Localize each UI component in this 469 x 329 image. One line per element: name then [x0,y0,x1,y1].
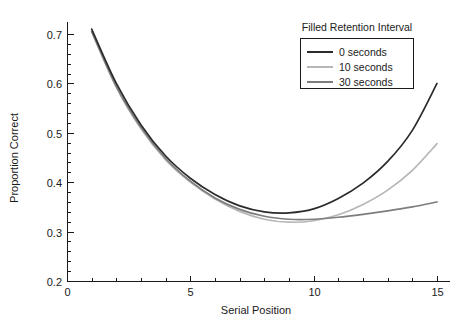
y-axis-ticks [68,35,74,282]
y-axis-tick-labels: 0.20.30.40.50.60.7 [47,29,62,288]
x-axis-title: Serial Position [221,304,291,316]
chart-figure: 0.20.30.40.50.60.7 051015 Serial Positio… [0,0,469,329]
y-tick-label: 0.2 [47,276,62,288]
y-tick-label: 0.6 [47,78,62,90]
data-series-group [92,29,437,222]
y-tick-label: 0.7 [47,29,62,41]
legend-label: 0 seconds [339,46,387,58]
x-tick-label: 15 [431,286,443,298]
y-tick-label: 0.3 [47,227,62,239]
x-tick-label: 5 [187,286,193,298]
y-tick-label: 0.5 [47,128,62,140]
x-axis-ticks [68,276,438,282]
legend-label: 30 seconds [339,76,393,88]
serial-position-line-chart: 0.20.30.40.50.60.7 051015 Serial Positio… [0,0,469,329]
legend: Filled Retention Interval 0 seconds10 se… [301,21,414,89]
x-axis-tick-labels: 051015 [64,286,443,298]
y-axis-title: Proportion Correct [8,113,20,203]
y-tick-label: 0.4 [47,177,62,189]
x-tick-label: 10 [308,286,320,298]
legend-title: Filled Retention Interval [302,21,412,33]
legend-label: 10 seconds [339,61,393,73]
legend-entries: 0 seconds10 seconds30 seconds [307,46,393,88]
x-tick-label: 0 [64,286,70,298]
